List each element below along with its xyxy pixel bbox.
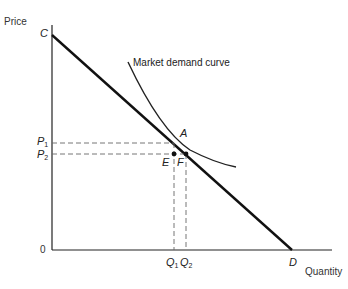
- q1-label: Q1: [166, 256, 178, 269]
- diagram-canvas: [0, 0, 348, 289]
- point-a-label: A: [180, 127, 187, 139]
- point-d-label: D: [289, 256, 297, 268]
- origin-label: 0: [40, 244, 46, 255]
- y-axis-label: Price: [4, 16, 27, 27]
- market-demand-curve-label: Market demand curve: [133, 57, 230, 68]
- point-f-label: F: [177, 156, 184, 168]
- p1-label: P1: [37, 135, 48, 148]
- x-axis-label: Quantity: [305, 266, 342, 277]
- point-f-dot: [184, 152, 189, 157]
- p2-label: P2: [37, 148, 48, 161]
- q2-label: Q2: [180, 256, 192, 269]
- point-e-dot: [172, 152, 177, 157]
- point-c-label: C: [40, 27, 48, 39]
- diagram: Price Quantity 0 C D A E F P1 P2 Q1 Q2 M…: [0, 0, 348, 289]
- point-e-label: E: [162, 156, 169, 168]
